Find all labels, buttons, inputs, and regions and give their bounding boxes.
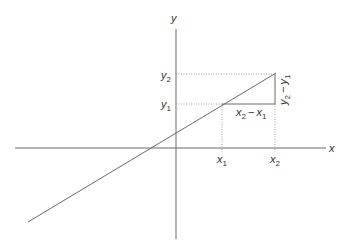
x2-label: x2 bbox=[269, 153, 281, 168]
y2-label: y2 bbox=[160, 69, 172, 84]
y1-label: y1 bbox=[160, 98, 172, 113]
slope-diagram: x y y2 y1 x1 x2 x2−x1 y2−y1 bbox=[0, 0, 347, 251]
rise-label: y2−y1 bbox=[277, 74, 292, 106]
x1-label: x1 bbox=[216, 153, 228, 168]
y-axis-label: y bbox=[170, 12, 178, 24]
x-axis-label: x bbox=[328, 142, 335, 154]
run-label: x2−x1 bbox=[235, 106, 267, 121]
